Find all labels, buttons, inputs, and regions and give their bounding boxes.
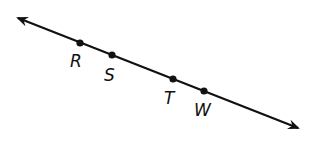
point-r [76,39,83,46]
point-label-r: R [70,51,82,71]
point-t [169,75,176,82]
line-diagram: RSTW [0,0,320,146]
point-label-s: S [104,65,115,85]
line-rw [18,18,298,128]
point-label-t: T [164,88,176,108]
point-s [108,51,115,58]
point-label-w: W [194,100,212,120]
point-w [200,87,207,94]
